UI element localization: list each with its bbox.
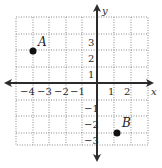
y-tick-label: −2 bbox=[84, 119, 99, 130]
x-axis-label: x bbox=[151, 86, 157, 97]
coordinate-plane: x y −4 −3 −2 −1 1 2 3 2 1 −1 −2 −3 A B bbox=[0, 0, 162, 168]
y-tick-label: 2 bbox=[88, 53, 94, 64]
point-a bbox=[30, 48, 37, 55]
y-tick-label: −1 bbox=[84, 103, 99, 114]
point-b-label: B bbox=[121, 116, 131, 130]
x-tick-label: 2 bbox=[124, 86, 130, 97]
y-tick-label: −3 bbox=[84, 135, 99, 146]
x-tick-label: −4 bbox=[20, 86, 35, 97]
y-tick-label: 3 bbox=[88, 37, 94, 48]
x-tick-label: 1 bbox=[108, 86, 114, 97]
point-a-label: A bbox=[37, 35, 47, 49]
point-b bbox=[114, 130, 121, 137]
x-tick-label: −2 bbox=[54, 86, 69, 97]
x-tick-label: −1 bbox=[70, 86, 85, 97]
x-tick-label: −3 bbox=[37, 86, 52, 97]
y-axis-label: y bbox=[101, 5, 108, 16]
y-tick-label: 1 bbox=[88, 69, 94, 80]
